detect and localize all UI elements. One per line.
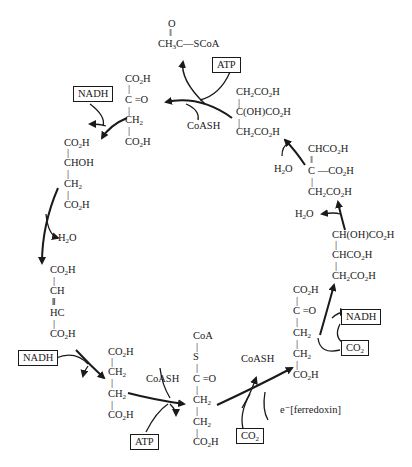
atp-bottom-box: ATP [130,434,159,450]
reductive-tca-cycle-diagram: O ‖ CH3C—SCoA ATP CoASH CH2CO2H | C(OH)C… [0,0,412,467]
atp-top-box: ATP [212,57,241,73]
co2-right-box: CO2 [341,340,369,356]
coash-bottom-right-label: CoASH [241,353,274,365]
nadh-bottom-left-box: NADH [18,350,58,366]
nadh-right-box: NADH [341,309,381,325]
coash-top-label: CoASH [187,120,220,132]
nadh-left-box: NADH [73,86,113,102]
co2-bottom-box: CO2 [236,428,264,444]
h2o-left-label: H2O [58,232,77,244]
ferredoxin-label: e⁻[ferredoxin] [280,404,341,416]
acetyl-coa-label: CH3C—SCoA [158,38,219,50]
coash-bottom-label: CoASH [146,373,179,385]
h2o-right-lower-label: H2O [295,208,314,220]
h2o-right-upper-label: H2O [274,163,293,175]
